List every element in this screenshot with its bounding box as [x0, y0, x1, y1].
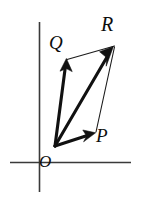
vector-diagram-figure: R Q P O: [0, 0, 141, 204]
diagram-canvas: [0, 0, 141, 204]
point-label-p: P: [96, 126, 108, 145]
point-label-q: Q: [49, 33, 63, 52]
point-label-r: R: [101, 14, 113, 34]
point-label-o: O: [39, 153, 51, 170]
